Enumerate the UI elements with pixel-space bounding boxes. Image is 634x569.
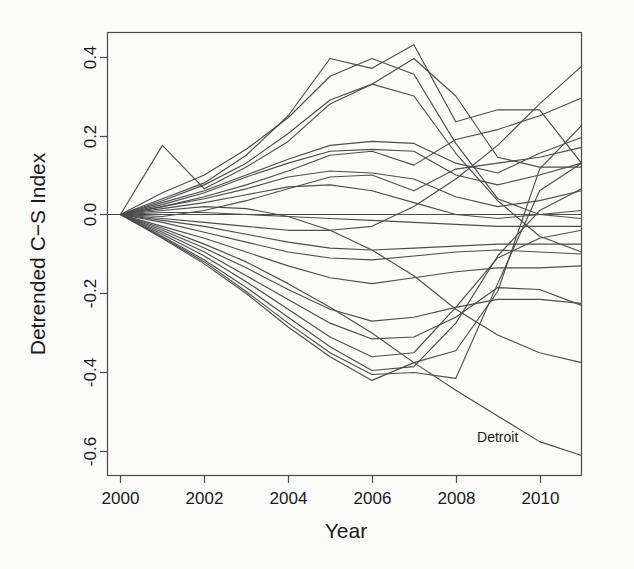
x-tick-label: 2002 [186,489,224,508]
annotations: Detroit [477,429,518,445]
y-tick-label: 0.4 [81,46,100,70]
x-tick-label: 2008 [438,489,476,508]
y-tick-label: 0.2 [81,125,100,149]
figure-canvas: 0.4 0.2 0.0 -0.2 -0.4 -0.6 2000 2002 200… [0,0,634,569]
y-tick-label: -0.2 [81,279,100,308]
y-tick-label: -0.6 [81,437,100,466]
x-tick-label: 2004 [270,489,308,508]
x-tick-label: 2006 [354,489,392,508]
detroit-label: Detroit [477,429,518,445]
y-tick-label: -0.4 [81,358,100,387]
x-axis-title: Year [325,519,367,542]
y-axis-title: Detrended C−S Index [26,152,49,355]
x-tick-label: 2010 [522,489,560,508]
line-chart: 0.4 0.2 0.0 -0.2 -0.4 -0.6 2000 2002 200… [0,0,634,569]
y-tick-label: 0.0 [81,203,100,227]
x-tick-label: 2000 [102,489,140,508]
